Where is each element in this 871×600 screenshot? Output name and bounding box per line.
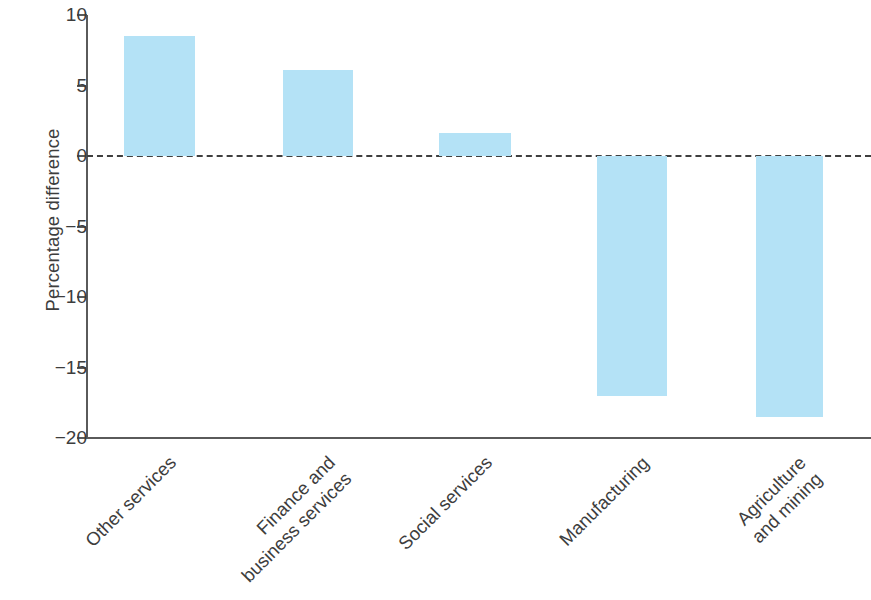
bar [283, 70, 353, 156]
bar [756, 156, 823, 417]
bar [124, 36, 195, 156]
bar [597, 156, 667, 396]
bar [439, 133, 511, 156]
bar-chart: Percentage difference 1050−5−10−15−20 Ot… [0, 0, 871, 600]
